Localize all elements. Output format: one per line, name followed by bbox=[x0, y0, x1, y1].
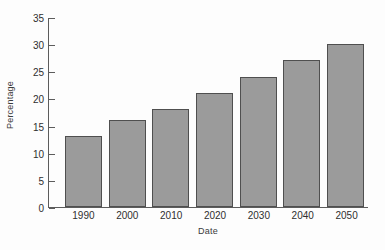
bar-slot bbox=[193, 18, 236, 207]
x-axis-tick-label: 2020 bbox=[194, 210, 237, 226]
x-axis-tick-label: 1990 bbox=[62, 210, 105, 226]
bar-slot bbox=[237, 18, 280, 207]
bar-slot bbox=[281, 18, 324, 207]
plot-area bbox=[48, 18, 368, 208]
x-axis-tick-label: 2000 bbox=[106, 210, 149, 226]
bar[interactable] bbox=[196, 93, 233, 207]
bar-slot bbox=[62, 18, 105, 207]
x-axis-tick-label: 2050 bbox=[325, 210, 368, 226]
y-axis-tick-label: 25 bbox=[33, 67, 44, 78]
bar-chart: Percentage 05101520253035 19902000201020… bbox=[0, 0, 385, 250]
bar[interactable] bbox=[327, 44, 364, 207]
y-axis-tick-mark bbox=[49, 208, 55, 209]
x-axis-tick-label: 2010 bbox=[150, 210, 193, 226]
bar[interactable] bbox=[240, 77, 277, 207]
x-axis-tick-label: 2030 bbox=[237, 210, 280, 226]
bar[interactable] bbox=[283, 60, 320, 207]
y-axis-tick-label: 35 bbox=[33, 13, 44, 24]
x-axis-tick-labels: 1990200020102020203020402050 bbox=[49, 210, 369, 226]
bar[interactable] bbox=[152, 109, 189, 207]
y-axis-title: Percentage bbox=[2, 0, 18, 210]
bar-slot bbox=[149, 18, 192, 207]
bar[interactable] bbox=[65, 136, 102, 207]
x-axis-tick-label: 2040 bbox=[281, 210, 324, 226]
y-axis-tick-label: 15 bbox=[33, 121, 44, 132]
y-axis-title-text: Percentage bbox=[5, 81, 15, 129]
x-axis-spine bbox=[48, 207, 368, 208]
y-axis-tick-labels: 05101520253035 bbox=[18, 0, 44, 210]
y-axis-tick-label: 20 bbox=[33, 94, 44, 105]
y-axis-tick-label: 5 bbox=[38, 175, 44, 186]
bar-slot bbox=[324, 18, 367, 207]
bar[interactable] bbox=[109, 120, 146, 207]
bars-group bbox=[49, 18, 368, 207]
y-axis-tick-label: 30 bbox=[33, 40, 44, 51]
bar-slot bbox=[106, 18, 149, 207]
y-axis-tick-label: 10 bbox=[33, 148, 44, 159]
x-axis-title: Date bbox=[48, 226, 368, 236]
y-axis-tick-label: 0 bbox=[38, 203, 44, 214]
